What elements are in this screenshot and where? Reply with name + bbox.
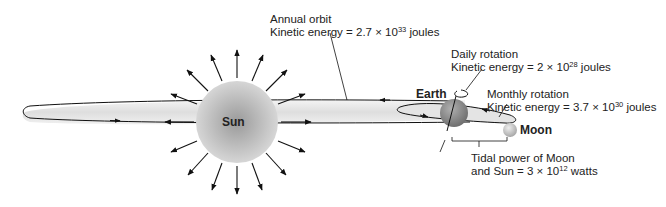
- rotation-arrow-icon: [455, 90, 468, 97]
- earth-label: Earth: [416, 88, 447, 101]
- daily-rotation-energy: Kinetic energy = 2 × 1028 joules: [451, 61, 611, 74]
- sun-label: Sun: [222, 116, 245, 129]
- moon-label: Moon: [520, 124, 552, 137]
- annual-orbit-title: Annual orbit: [270, 13, 439, 26]
- annual-orbit-annotation: Annual orbit Kinetic energy = 2.7 × 1033…: [270, 13, 439, 39]
- daily-rotation-annotation: Daily rotation Kinetic energy = 2 × 1028…: [451, 48, 611, 74]
- monthly-rotation-annotation: Monthly rotation Kinetic energy = 3.7 × …: [487, 88, 656, 114]
- daily-rotation-title: Daily rotation: [451, 48, 611, 61]
- annual-orbit-energy: Kinetic energy = 2.7 × 1033 joules: [270, 26, 439, 39]
- tidal-power-annotation: Tidal power of Moon and Sun = 3 × 1012 w…: [471, 152, 598, 178]
- moon: [503, 123, 517, 137]
- tidal-power-value: and Sun = 3 × 1012 watts: [471, 165, 598, 178]
- tidal-power-title: Tidal power of Moon: [471, 152, 598, 165]
- monthly-rotation-title: Monthly rotation: [487, 88, 656, 101]
- monthly-rotation-energy: Kinetic energy = 3.7 × 1030 joules: [487, 101, 656, 114]
